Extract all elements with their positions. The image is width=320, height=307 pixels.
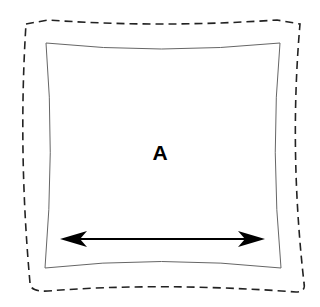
double-arrow-icon [60, 231, 265, 247]
region-label: A [145, 140, 175, 166]
